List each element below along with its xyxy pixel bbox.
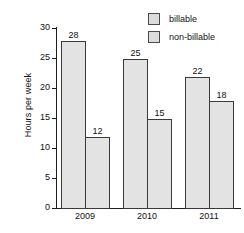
x-label-2010: 2010	[117, 211, 177, 221]
y-tick-mark-10	[52, 148, 56, 149]
legend-label-billable: billable	[169, 14, 197, 24]
y-tick-mark-5	[52, 178, 56, 179]
bar-value-2010-non-billable: 15	[154, 108, 164, 119]
legend-swatch-non-billable-icon	[148, 31, 160, 43]
bar-chart: Hours per week 30 25 20 15 10 5 0 28 12 …	[0, 0, 244, 233]
y-tick-label-0: 0	[0, 202, 50, 213]
bar-2010-billable[interactable]: 25	[123, 59, 148, 209]
y-tick-mark-30	[52, 28, 56, 29]
y-tick-mark-0	[52, 208, 56, 209]
legend-swatch-billable-icon	[148, 13, 160, 25]
y-tick-label-10: 10	[0, 142, 50, 153]
bar-value-2010-billable: 25	[130, 48, 140, 59]
y-tick-label-25: 25	[0, 52, 50, 63]
y-tick-label-15: 15	[0, 112, 50, 123]
bar-2010-non-billable[interactable]: 15	[147, 119, 172, 209]
y-tick-label-30: 30	[0, 22, 50, 33]
bar-2009-non-billable[interactable]: 12	[85, 137, 110, 209]
bar-2011-billable[interactable]: 22	[185, 77, 210, 209]
bar-2011-non-billable[interactable]: 18	[209, 101, 234, 209]
y-tick-mark-25	[52, 58, 56, 59]
y-tick-mark-15	[52, 118, 56, 119]
bar-value-2009-non-billable: 12	[92, 126, 102, 137]
bar-value-2011-non-billable: 18	[216, 90, 226, 101]
legend-item-non-billable[interactable]: non-billable	[148, 29, 215, 45]
y-tick-label-20: 20	[0, 82, 50, 93]
bar-value-2009-billable: 28	[68, 30, 78, 41]
y-tick-mark-20	[52, 88, 56, 89]
x-label-2009: 2009	[55, 211, 115, 221]
y-axis-line	[56, 27, 57, 209]
chart-legend: billable non-billable	[148, 11, 215, 47]
bar-2009-billable[interactable]: 28	[61, 41, 86, 209]
legend-item-billable[interactable]: billable	[148, 11, 215, 27]
x-label-2011: 2011	[179, 211, 239, 221]
legend-label-non-billable: non-billable	[169, 32, 215, 42]
y-tick-label-5: 5	[0, 172, 50, 183]
bar-value-2011-billable: 22	[192, 66, 202, 77]
